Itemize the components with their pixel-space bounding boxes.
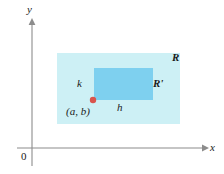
height-dimension-label: k [77, 78, 82, 89]
point-a-b-label: (a, b) [66, 106, 90, 117]
y-axis-arrowhead [29, 18, 36, 25]
figure-canvas: y x 0 R R' k h (a, b) [0, 0, 224, 174]
origin-label: 0 [21, 151, 27, 162]
point-a-b-marker [90, 97, 96, 103]
x-axis-arrowhead [202, 145, 209, 152]
outer-rectangle-label: R [172, 52, 179, 63]
y-axis-label: y [27, 4, 32, 15]
x-axis-label: x [210, 142, 215, 153]
inner-rectangle-label: R' [153, 78, 163, 89]
width-dimension-label: h [117, 102, 123, 113]
figure-graphics [0, 0, 224, 174]
inner-rectangle-R-prime [94, 68, 153, 100]
